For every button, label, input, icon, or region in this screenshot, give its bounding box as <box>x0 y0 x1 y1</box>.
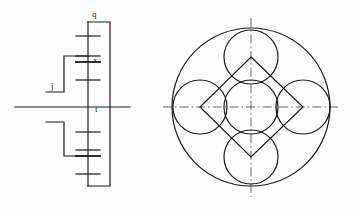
label-j: j <box>50 81 54 91</box>
lower-link-bracket <box>46 122 88 156</box>
drawing-canvas: q x j t <box>0 0 359 213</box>
label-q: q <box>92 9 97 19</box>
label-x: x <box>93 55 98 65</box>
outer-bracket <box>88 22 110 186</box>
technical-drawing-svg: q x j t <box>0 0 359 213</box>
right-view-planetary-layout <box>163 18 341 197</box>
label-t: t <box>95 104 98 114</box>
centerlines-group <box>163 18 341 197</box>
left-view-shaft-schematic <box>15 22 130 186</box>
